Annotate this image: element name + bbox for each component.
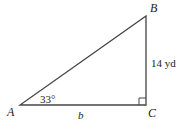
vertex-b-label: B: [150, 1, 158, 15]
vertex-c-label: C: [148, 106, 157, 120]
side-bc-label: 14 yd: [151, 57, 176, 69]
right-angle-marker: [139, 98, 146, 105]
angle-a-label: 33°: [40, 93, 55, 105]
side-ac-label: b: [78, 109, 84, 121]
vertex-a-label: A: [6, 105, 15, 119]
triangle-diagram: B A C 33° 14 yd b: [0, 0, 182, 134]
triangle: [20, 16, 146, 105]
